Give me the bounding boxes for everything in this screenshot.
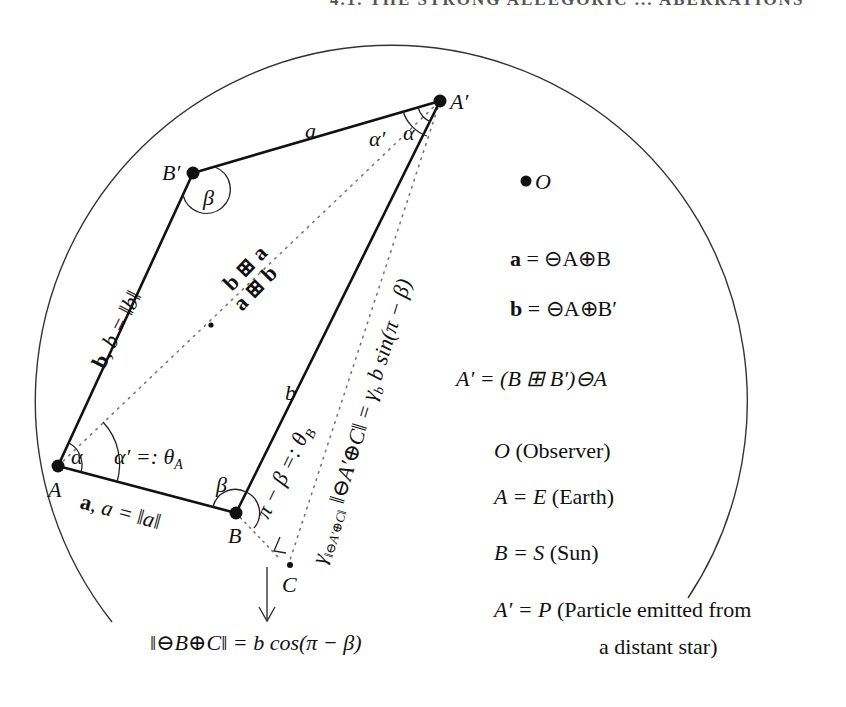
- angle-label-alpha-A: α: [71, 444, 83, 469]
- angle-label-beta-Bprime: β: [202, 185, 214, 210]
- angle-label-alphaprime-Aprime: α′: [369, 126, 387, 151]
- edge-label-top-a: a: [305, 118, 316, 143]
- legend-particle-cont: a distant star): [599, 634, 718, 660]
- altitude-dotted-line: [290, 101, 440, 560]
- label-A: A: [46, 477, 62, 502]
- point-Aprime: [434, 95, 447, 108]
- legend-b-def: b = ⊖A⊕B′: [510, 296, 617, 322]
- legend-a-def: a = ⊖A⊕B: [510, 246, 611, 272]
- angle-label-beta-B: β: [215, 472, 227, 497]
- point-A: [52, 460, 65, 473]
- label-O: O: [535, 169, 551, 194]
- point-O: [521, 176, 532, 187]
- angle-label-alpha-Aprime: α: [403, 120, 415, 145]
- svg-text:a, a = ‖a‖: a, a = ‖a‖: [78, 489, 164, 534]
- legend-observer: O (Observer): [494, 438, 611, 464]
- legend-particle: A′ = P (Particle emitted from: [494, 597, 751, 623]
- edge-label-left: b, b = ‖b‖: [86, 287, 146, 373]
- label-B: B: [228, 523, 241, 548]
- svg-text:π − β =: θB: π − β =: θB: [250, 421, 319, 524]
- angle-arc-alpha-Aprime: [418, 107, 431, 122]
- edge-label-bottom: a, a = ‖a‖: [78, 489, 164, 534]
- point-C: [287, 562, 293, 568]
- legend-earth: A = E (Earth): [494, 484, 614, 510]
- legend-aprime-def: A′ = (B ⊞ B′)⊖A: [456, 366, 607, 392]
- point-midpoint: [208, 322, 213, 327]
- point-Bprime: [187, 167, 200, 180]
- edge-label-pi-minus-beta: π − β =: θB: [250, 421, 319, 524]
- legend-sun: B = S (Sun): [494, 540, 599, 566]
- svg-text:b, b = ‖b‖: b, b = ‖b‖: [86, 287, 146, 373]
- label-Bprime: B′: [162, 160, 181, 185]
- right-angle-marker: [274, 537, 286, 553]
- svg-text:γ‖⊖A′⊕C‖ ‖⊖A′⊕C‖ = γb b sin(π: γ‖⊖A′⊕C‖ ‖⊖A′⊕C‖ = γb b sin(π − β): [306, 276, 419, 568]
- bottom-formula: ‖⊖B⊕C‖ = b cos(π − β): [150, 630, 361, 655]
- altitude-label: γ‖⊖A′⊕C‖ ‖⊖A′⊕C‖ = γb b sin(π − β): [306, 276, 419, 568]
- point-B: [230, 507, 243, 520]
- edge-label-right-b: b: [285, 380, 296, 405]
- angle-label-alphaprime-A: α′ =: θA: [114, 444, 183, 472]
- label-C: C: [282, 572, 297, 597]
- label-Aprime: A′: [448, 89, 469, 114]
